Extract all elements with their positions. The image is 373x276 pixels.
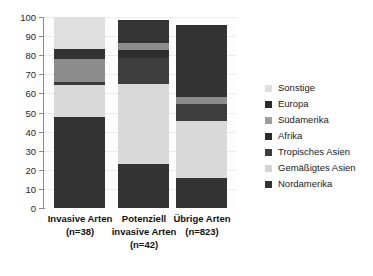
- legend-item-sonstige[interactable]: Sonstige: [265, 80, 373, 96]
- x-axis-label-line: (n=42): [102, 238, 186, 251]
- y-tick-label: 10: [25, 183, 36, 194]
- y-tick-label: 40: [25, 126, 36, 137]
- y-tick-label: 30: [25, 145, 36, 156]
- legend-label: Südamerika: [278, 115, 329, 125]
- legend-item-gem-igtes-asien[interactable]: Gemäßigtes Asien: [265, 160, 373, 176]
- legend-swatch-icon: [265, 181, 272, 188]
- bar-segment-sonstige: [54, 17, 105, 49]
- bar-segment-nordamerika: [118, 164, 169, 208]
- y-tick-label: 80: [25, 50, 36, 61]
- bar-segment-tropisches-asien: [118, 58, 169, 84]
- legend-label: Gemäßigtes Asien: [278, 163, 356, 173]
- y-tick-mark: [39, 208, 43, 209]
- legend-label: Afrika: [278, 131, 302, 141]
- legend-label: Nordamerika: [278, 179, 332, 189]
- plot-area: [44, 17, 236, 208]
- legend-item-tropisches-asien[interactable]: Tropisches Asien: [265, 144, 373, 160]
- y-tick-label: 20: [25, 164, 36, 175]
- legend-swatch-icon: [265, 117, 272, 124]
- x-axis-label-3: Übrige Arten(n=823): [160, 212, 244, 238]
- y-tick-label: 70: [25, 69, 36, 80]
- bar-segment-nordamerika: [54, 117, 105, 208]
- y-tick-label: 0: [31, 203, 36, 214]
- legend-label: Tropisches Asien: [278, 147, 350, 157]
- y-tick-mark: [39, 132, 43, 133]
- legend-swatch-icon: [265, 149, 272, 156]
- y-tick-mark: [39, 93, 43, 94]
- bar-segment-nordamerika: [176, 178, 227, 208]
- bar-segment-gem-igtes-asien: [118, 84, 169, 164]
- bar-segment-gem-igtes-asien: [176, 121, 227, 178]
- y-tick-mark: [39, 113, 43, 114]
- bar-3: [176, 17, 227, 208]
- bar-segment-tropisches-asien: [54, 82, 105, 85]
- x-axis-label-line: (n=823): [160, 225, 244, 238]
- bar-segment-tropisches-asien: [176, 104, 227, 121]
- legend-swatch-icon: [265, 133, 272, 140]
- x-axis-label-line: Übrige Arten: [160, 212, 244, 225]
- y-tick-label: 60: [25, 88, 36, 99]
- bar-segment-gem-igtes-asien: [54, 85, 105, 117]
- bar-segment-afrika: [118, 43, 169, 51]
- chart-legend: SonstigeEuropaSüdamerikaAfrikaTropisches…: [265, 80, 373, 192]
- legend-label: Europa: [278, 99, 309, 109]
- y-axis-labels: 0102030405060708090100: [0, 17, 40, 209]
- chart-container: 0102030405060708090100 Invasive Arten(n=…: [0, 0, 373, 276]
- legend-swatch-icon: [265, 101, 272, 108]
- bar-segment-afrika: [176, 97, 227, 104]
- bar-1: [54, 17, 105, 208]
- y-tick-label: 90: [25, 31, 36, 42]
- legend-item-s-damerika[interactable]: Südamerika: [265, 112, 373, 128]
- y-tick-mark: [39, 151, 43, 152]
- bar-segment-s-damerika: [54, 49, 105, 59]
- y-tick-mark: [39, 170, 43, 171]
- y-tick-mark: [39, 189, 43, 190]
- legend-label: Sonstige: [278, 83, 315, 93]
- bar-segment-s-damerika: [118, 50, 169, 58]
- bar-segment-afrika: [54, 59, 105, 82]
- bar-2: [118, 17, 169, 208]
- legend-item-afrika[interactable]: Afrika: [265, 128, 373, 144]
- legend-swatch-icon: [265, 85, 272, 92]
- y-tick-mark: [39, 74, 43, 75]
- y-tick-label: 50: [25, 107, 36, 118]
- y-tick-label: 100: [20, 12, 36, 23]
- legend-item-europa[interactable]: Europa: [265, 96, 373, 112]
- y-tick-mark: [39, 36, 43, 37]
- y-tick-mark: [39, 55, 43, 56]
- y-tick-mark: [39, 17, 43, 18]
- bar-segment-europa: [118, 20, 169, 43]
- legend-item-nordamerika[interactable]: Nordamerika: [265, 176, 373, 192]
- legend-swatch-icon: [265, 165, 272, 172]
- bar-segment-s-damerika: [176, 25, 227, 98]
- x-axis-labels: Invasive Arten(n=38)Potenziellinvasive A…: [44, 212, 236, 274]
